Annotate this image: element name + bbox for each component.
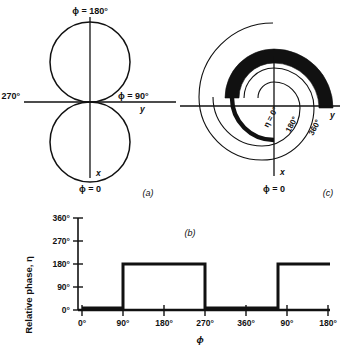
panel-b-xtick-180: 180° (155, 318, 173, 328)
panel-c-axis-x-label: x (279, 167, 286, 177)
figure-root: ϕ = 180° ϕ = 270° ϕ = 90° ϕ = 0 x y (a) … (0, 0, 349, 345)
panel-c-label-eta360: 360° (307, 118, 323, 137)
panel-b-ytick-360: 360° (52, 213, 70, 223)
panel-b-ytick-0: 0° (62, 305, 71, 315)
panel-b-xtick-450: 90° (281, 318, 294, 328)
panel-a-caption: (a) (143, 188, 154, 198)
panel-a-label-bottom: ϕ = 0 (79, 184, 101, 194)
panel-c-caption: (c) (323, 188, 334, 198)
panel-b-ytick-180: 180° (52, 259, 70, 269)
phase-step-series (82, 264, 330, 308)
panel-b-caption: (b) (185, 228, 196, 238)
panel-b-ytick-270: 270° (52, 236, 70, 246)
outer-spiral-guide (199, 23, 314, 160)
panel-a-label-left: ϕ = 270° (0, 91, 20, 101)
panel-c-label-eta180: 180° (284, 115, 300, 134)
panel-b-xtick-360: 360° (237, 318, 255, 328)
panel-c-label-eta0: η = 0° (262, 106, 280, 129)
panel-a-label-right: ϕ = 90° (118, 91, 149, 101)
panel-a-label-top: ϕ = 180° (72, 6, 108, 16)
panel-b-ytick-90: 90° (57, 282, 70, 292)
panel-c-label-bottom: ϕ = 0 (263, 184, 285, 194)
panel-a-axis-y-label: y (139, 104, 146, 114)
panel-c: η = 0° 180° 360° y x ϕ = 0 (c) (180, 0, 349, 200)
panel-b-xtick-270: 270° (196, 318, 214, 328)
panel-a-axis-x-label: x (95, 168, 102, 178)
panel-b-xtick-540: 180° (319, 318, 337, 328)
panel-b-xtick-0: 0° (78, 318, 87, 328)
panel-b: (b) Relative phase, η 0° 90° 180° 270° 3… (0, 200, 349, 345)
spiral-phase-band (225, 49, 333, 108)
panel-b-x-axis-title: ϕ (196, 334, 203, 345)
panel-b-xtick-90: 90° (117, 318, 130, 328)
panel-c-axis-y-label: y (329, 110, 336, 120)
panel-a: ϕ = 180° ϕ = 270° ϕ = 90° ϕ = 0 x y (a) (0, 0, 180, 200)
panel-b-y-axis-title: Relative phase, η (23, 256, 34, 334)
